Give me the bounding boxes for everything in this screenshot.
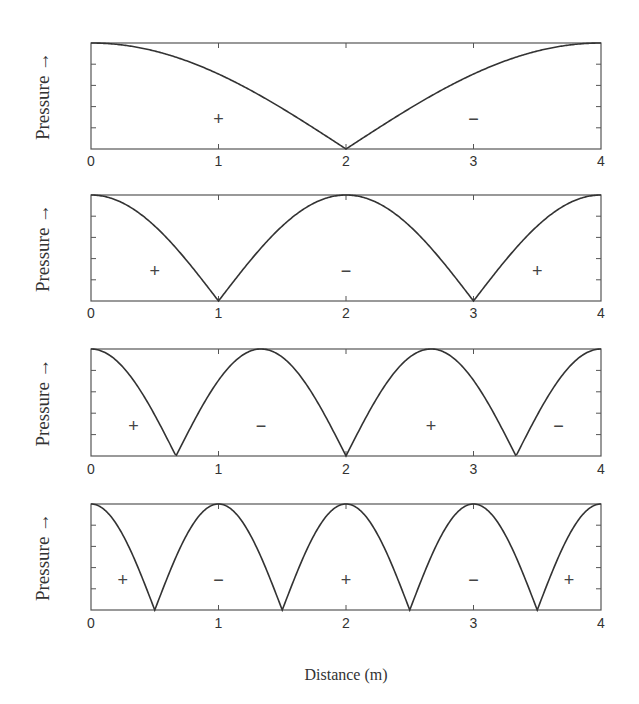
x-tick-label: 3 xyxy=(470,153,478,169)
y-axis-label: Pressure → xyxy=(32,513,53,601)
x-tick-label: 4 xyxy=(597,305,605,321)
pressure-curve xyxy=(91,504,601,610)
x-tick-label: 2 xyxy=(342,615,350,631)
minus-sign-marker: − xyxy=(468,109,479,129)
plus-sign-marker: + xyxy=(149,261,160,281)
plot-frame xyxy=(91,195,601,301)
minus-sign-marker: − xyxy=(213,570,224,590)
plus-sign-marker: + xyxy=(128,416,139,436)
x-tick-label: 3 xyxy=(470,461,478,477)
plus-sign-marker: + xyxy=(118,570,129,590)
x-tick-label: 4 xyxy=(597,153,605,169)
x-tick-label: 4 xyxy=(597,615,605,631)
subplot-3: 01234+−+−Pressure → xyxy=(32,349,605,477)
pressure-curve xyxy=(91,349,601,456)
x-axis-title: Distance (m) xyxy=(304,666,387,684)
x-tick-label: 2 xyxy=(342,305,350,321)
standing-wave-figure: 01234+−Pressure →01234+−+Pressure →01234… xyxy=(0,0,639,704)
pressure-curve xyxy=(91,43,601,149)
x-tick-label: 0 xyxy=(87,153,95,169)
y-axis-label: Pressure → xyxy=(32,358,53,446)
x-tick-label: 3 xyxy=(470,305,478,321)
minus-sign-marker: − xyxy=(256,416,267,436)
pressure-curve xyxy=(91,195,601,301)
plus-sign-marker: + xyxy=(341,570,352,590)
subplot-1: 01234+−Pressure → xyxy=(32,43,605,169)
minus-sign-marker: − xyxy=(468,570,479,590)
x-tick-label: 1 xyxy=(215,153,223,169)
x-tick-label: 2 xyxy=(342,461,350,477)
x-tick-label: 0 xyxy=(87,305,95,321)
plus-sign-marker: + xyxy=(532,261,543,281)
y-axis-label: Pressure → xyxy=(32,52,53,140)
x-tick-label: 0 xyxy=(87,615,95,631)
plus-sign-marker: + xyxy=(213,109,224,129)
plus-sign-marker: + xyxy=(564,570,575,590)
x-tick-label: 1 xyxy=(215,615,223,631)
x-tick-label: 1 xyxy=(215,305,223,321)
x-tick-label: 4 xyxy=(597,461,605,477)
x-tick-label: 1 xyxy=(215,461,223,477)
plot-frame xyxy=(91,504,601,610)
subplot-4: 01234+−+−+Pressure → xyxy=(32,504,605,631)
plot-frame xyxy=(91,43,601,149)
x-tick-label: 0 xyxy=(87,461,95,477)
minus-sign-marker: − xyxy=(341,261,352,281)
minus-sign-marker: − xyxy=(553,416,564,436)
x-tick-label: 3 xyxy=(470,615,478,631)
subplot-2: 01234+−+Pressure → xyxy=(32,195,605,321)
plus-sign-marker: + xyxy=(426,416,437,436)
x-tick-label: 2 xyxy=(342,153,350,169)
y-axis-label: Pressure → xyxy=(32,204,53,292)
